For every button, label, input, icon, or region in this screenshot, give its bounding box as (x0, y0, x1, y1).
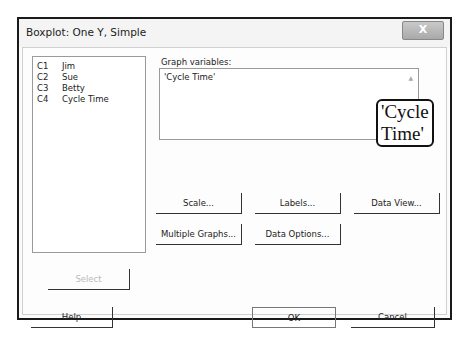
column-id: C4 (37, 94, 62, 104)
title-bar: Boxplot: One Y, Simple X (19, 19, 450, 47)
select-button[interactable]: Select (48, 269, 130, 290)
dialog-title: Boxplot: One Y, Simple (26, 26, 146, 38)
list-item[interactable]: C4Cycle Time (37, 94, 109, 105)
help-button[interactable]: Help (31, 307, 113, 328)
scale-button[interactable]: Scale... (156, 193, 242, 214)
multiple-graphs-button[interactable]: Multiple Graphs... (156, 224, 242, 245)
list-item[interactable]: C2Sue (37, 72, 78, 83)
labels-button[interactable]: Labels... (255, 193, 341, 214)
cycle-time-callout: 'Cycle Time' (376, 99, 434, 147)
column-name: Jim (62, 61, 75, 71)
dialog-body: C1Jim C2Sue C3Betty C4Cycle Time Graph v… (22, 47, 447, 315)
column-id: C1 (37, 61, 62, 71)
variable-list[interactable]: C1Jim C2Sue C3Betty C4Cycle Time (32, 56, 146, 253)
graph-variables-input[interactable]: 'Cycle Time' ▲ ▼ 'Cycle Time' (159, 68, 419, 140)
boxplot-dialog: Boxplot: One Y, Simple X C1Jim C2Sue C3B… (17, 17, 452, 320)
column-name: Betty (62, 83, 85, 93)
column-name: Cycle Time (62, 94, 109, 104)
column-name: Sue (62, 72, 78, 82)
data-options-button[interactable]: Data Options... (255, 224, 341, 245)
list-item[interactable]: C3Betty (37, 83, 85, 94)
scroll-up-icon[interactable]: ▲ (408, 74, 413, 81)
ok-button[interactable]: OK (252, 307, 336, 328)
close-button[interactable]: X (402, 21, 444, 40)
graph-variables-value: 'Cycle Time' (164, 72, 215, 82)
data-view-button[interactable]: Data View... (354, 193, 440, 214)
cancel-button[interactable]: Cancel (351, 307, 435, 328)
graph-variables-label: Graph variables: (161, 57, 231, 67)
column-id: C2 (37, 72, 62, 82)
column-id: C3 (37, 83, 62, 93)
list-item[interactable]: C1Jim (37, 61, 75, 72)
close-icon: X (419, 23, 427, 36)
